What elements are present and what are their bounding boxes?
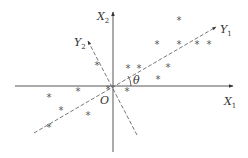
y1-label: Y1 bbox=[220, 23, 232, 38]
data-point: * bbox=[156, 74, 161, 85]
data-point: * bbox=[166, 62, 171, 73]
data-point: * bbox=[195, 39, 200, 50]
pca-axes-diagram: X2 X1 Y1 Y2 O θ ***************** bbox=[0, 0, 248, 158]
data-points: ***************** bbox=[47, 15, 212, 133]
data-point: * bbox=[76, 86, 81, 97]
x2-label: X2 bbox=[96, 10, 109, 25]
theta-label: θ bbox=[133, 74, 140, 87]
data-point: * bbox=[86, 110, 91, 121]
data-point: * bbox=[177, 39, 182, 50]
data-point: * bbox=[125, 86, 130, 97]
data-point: * bbox=[47, 122, 52, 133]
data-point: * bbox=[95, 60, 100, 71]
y2-axis bbox=[88, 41, 137, 135]
data-point: * bbox=[47, 92, 52, 103]
x1-label: X1 bbox=[223, 95, 236, 110]
data-point: * bbox=[106, 84, 111, 95]
y1-axis bbox=[34, 27, 216, 133]
data-point: * bbox=[155, 39, 160, 50]
data-point: * bbox=[126, 63, 131, 74]
y2-label: Y2 bbox=[74, 36, 86, 51]
data-point: * bbox=[137, 63, 142, 74]
data-point: * bbox=[59, 105, 64, 116]
data-point: * bbox=[177, 15, 182, 26]
origin-label: O bbox=[100, 94, 109, 107]
data-point: * bbox=[207, 39, 212, 50]
